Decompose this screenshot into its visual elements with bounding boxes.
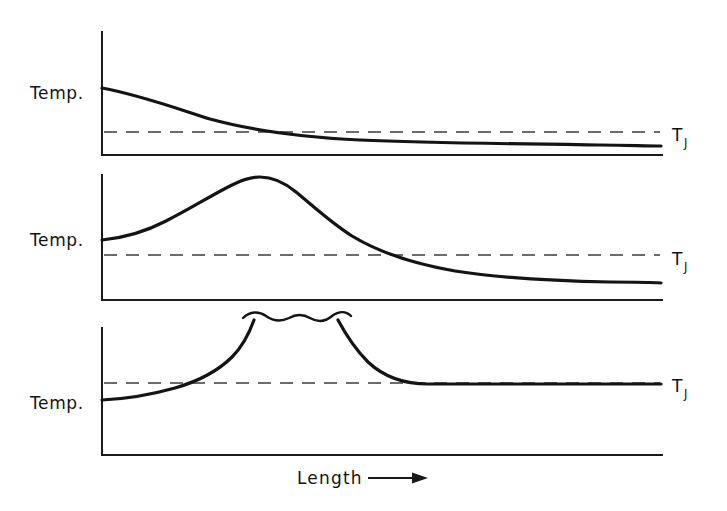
figure-canvas: Temp. T J Temp. T J Temp. [0,0,727,511]
right-arrow-icon [368,473,428,484]
panel-2-reference-label: T J [671,249,687,274]
panel-2-peaked-profile: Temp. T J [29,175,687,300]
panel-3-curve-rising [102,320,254,400]
panel-3-clipped-plateau-profile: Temp. T J [29,312,687,455]
panel-2-tj-main: T [671,249,683,269]
panel-2-tj-sub: J [683,260,687,274]
x-axis-label-group: Length [297,468,428,488]
panel-3-tj-sub: J [683,387,687,401]
panel-1-axes [102,32,662,155]
axis-break-squiggle [243,312,351,321]
panel-3-ylabel: Temp. [29,393,84,413]
panel-3-reference-label: T J [671,376,687,401]
panel-1-tj-main: T [671,125,683,145]
panel-3-curve-falling [338,320,661,384]
x-axis-label: Length [297,468,363,488]
panel-1-decaying-profile: Temp. T J [29,32,687,155]
panel-3-axes [102,328,662,455]
temperature-profile-figure: Temp. T J Temp. T J Temp. [0,0,727,511]
panel-1-ylabel: Temp. [29,83,84,103]
panel-2-ylabel: Temp. [29,230,84,250]
panel-1-curve [102,88,661,146]
panel-1-tj-sub: J [683,136,687,150]
panel-3-tj-main: T [671,376,683,396]
panel-2-curve [102,177,661,283]
panel-1-reference-label: T J [671,125,687,150]
